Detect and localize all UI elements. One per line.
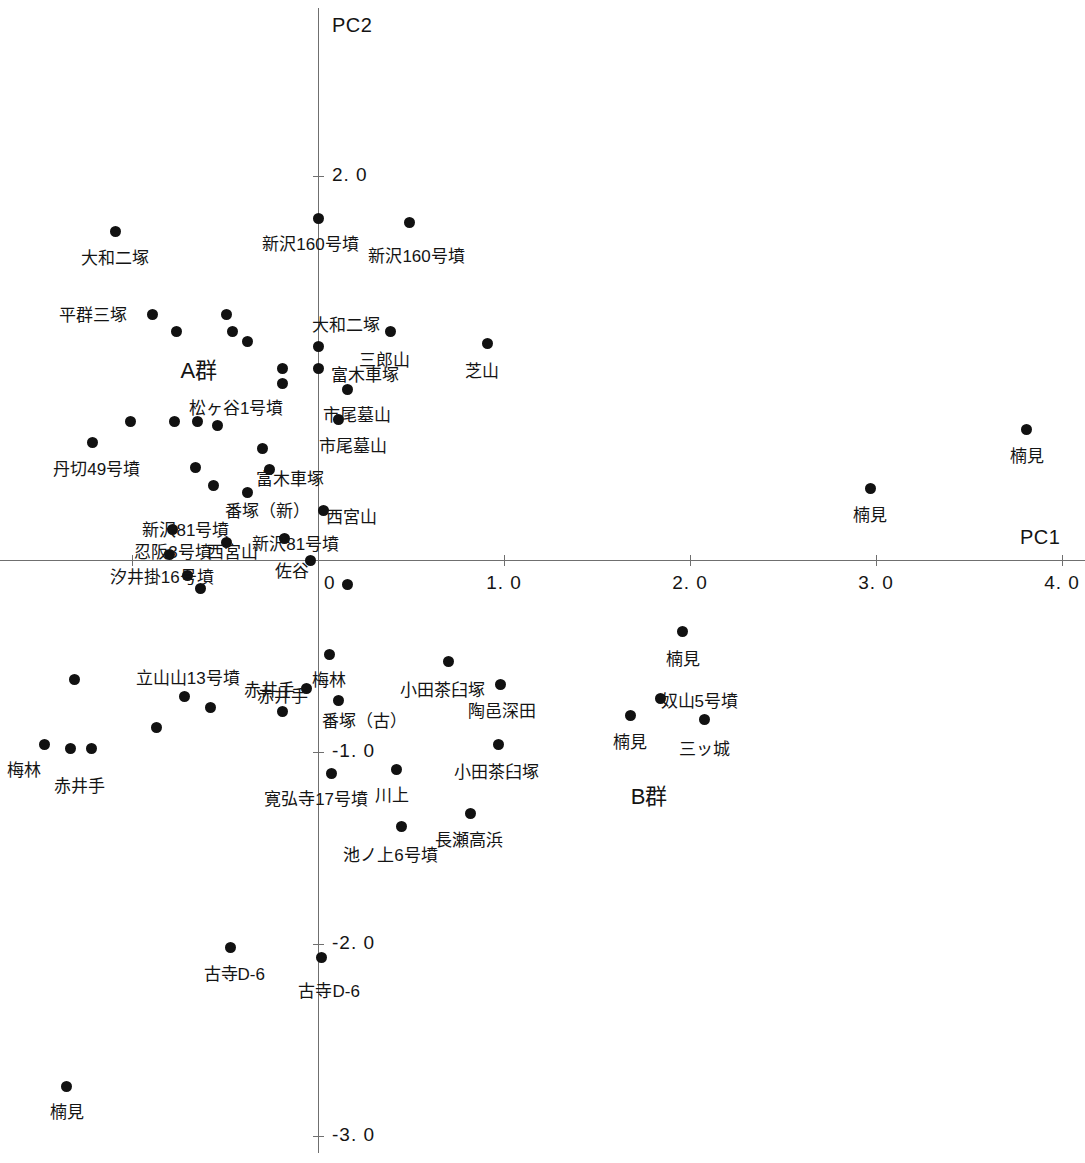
data-point-label: 立山山13号墳 xyxy=(136,664,240,689)
data-point-label: 古寺D-6 xyxy=(204,960,265,985)
data-point xyxy=(212,420,223,431)
data-point xyxy=(396,821,407,832)
data-point-label: 大和二塚 xyxy=(81,244,149,269)
data-point xyxy=(385,326,396,337)
data-point-label: 市尾墓山 xyxy=(319,432,387,457)
data-point-label: 丹切49号墳 xyxy=(53,455,140,480)
x-tick-label: 0 xyxy=(324,572,336,594)
x-tick-label: 3. 0 xyxy=(858,572,894,594)
data-point xyxy=(221,309,232,320)
data-point xyxy=(227,326,238,337)
cluster-annotation: B群 xyxy=(631,778,668,810)
data-point xyxy=(110,226,121,237)
data-point-label: 陶邑深田 xyxy=(468,697,536,722)
data-point-label: 番塚（新） xyxy=(225,497,310,522)
data-point-label: 川上 xyxy=(375,781,409,806)
data-point-label: 新沢160号墳 xyxy=(368,242,464,267)
data-point-label: 楠見 xyxy=(50,1098,84,1123)
data-point xyxy=(125,416,136,427)
y-tick-label: 2. 0 xyxy=(332,164,368,186)
data-point xyxy=(677,626,688,637)
data-point xyxy=(316,952,327,963)
data-point xyxy=(39,739,50,750)
data-point-label: 芝山 xyxy=(465,357,499,382)
data-point-label: 楠見 xyxy=(613,728,647,753)
y-tick xyxy=(313,176,324,177)
data-point xyxy=(324,649,335,660)
data-point xyxy=(190,462,201,473)
cluster-annotation: A群 xyxy=(181,352,218,384)
data-point xyxy=(208,480,219,491)
data-point xyxy=(179,691,190,702)
data-point xyxy=(342,579,353,590)
data-point xyxy=(169,416,180,427)
x-tick-label: 2. 0 xyxy=(672,572,708,594)
data-point-label: 大和二塚 xyxy=(312,311,380,336)
data-point xyxy=(87,437,98,448)
data-point-label: 梅林 xyxy=(312,666,346,691)
data-point xyxy=(61,1081,72,1092)
y-axis-title: PC2 xyxy=(332,14,372,37)
data-point xyxy=(277,363,288,374)
data-point xyxy=(69,674,80,685)
data-point-label: 新沢81号墳 xyxy=(252,530,339,555)
data-point-label: 赤井手 xyxy=(54,772,105,797)
data-point-label: 楠見 xyxy=(1010,442,1044,467)
data-point-label: 番塚（古） xyxy=(322,707,407,732)
data-point-label: 寛弘寺17号墳 xyxy=(264,785,368,810)
data-point-label: 新沢160号墳 xyxy=(262,230,358,255)
data-point xyxy=(205,702,216,713)
data-point xyxy=(326,768,337,779)
data-point xyxy=(277,378,288,389)
data-point-label: 奴山5号墳 xyxy=(661,687,738,712)
data-point xyxy=(242,336,253,347)
data-point-label: 小田茶臼塚 xyxy=(454,758,539,783)
data-point-label: 松ヶ谷1号墳 xyxy=(189,394,283,419)
y-tick-label: -1. 0 xyxy=(332,740,375,762)
data-point-label: 忍阪3号墳 xyxy=(134,538,211,563)
data-point xyxy=(699,714,710,725)
data-point xyxy=(147,309,158,320)
data-point xyxy=(482,338,493,349)
data-point xyxy=(865,483,876,494)
data-point-label: 西宮山 xyxy=(207,538,258,563)
x-tick xyxy=(1062,555,1063,566)
data-point-label: 富木車塚 xyxy=(331,361,399,386)
data-point-label: 池ノ上6号墳 xyxy=(343,841,437,866)
data-point xyxy=(313,363,324,374)
data-point xyxy=(342,384,353,395)
data-point xyxy=(313,213,324,224)
y-tick-label: -2. 0 xyxy=(332,932,375,954)
data-point-label: 古寺D-6 xyxy=(298,977,359,1002)
data-point xyxy=(313,341,324,352)
data-point-label: 平群三塚 xyxy=(59,301,127,326)
y-tick xyxy=(313,944,324,945)
data-point-label: 楠見 xyxy=(666,645,700,670)
data-point-label: 長瀬高浜 xyxy=(435,826,503,851)
pca-scatter-plot: 01. 02. 03. 04. 02. 0-1. 0-2. 0-3. 0PC2P… xyxy=(0,0,1085,1163)
data-point-label: 富木車塚 xyxy=(256,465,324,490)
data-point xyxy=(225,942,236,953)
data-point xyxy=(493,739,504,750)
x-axis-title: PC1 xyxy=(1020,526,1060,549)
data-point xyxy=(1021,424,1032,435)
y-tick xyxy=(313,1136,324,1137)
data-point xyxy=(443,656,454,667)
data-point-label: 三ッ城 xyxy=(679,735,730,760)
x-tick xyxy=(876,555,877,566)
data-point xyxy=(195,583,206,594)
data-point-label: 梅林 xyxy=(7,756,41,781)
x-tick-label: 4. 0 xyxy=(1044,572,1080,594)
data-point xyxy=(495,679,506,690)
x-tick xyxy=(690,555,691,566)
data-point xyxy=(65,743,76,754)
data-point-label: 佐谷 xyxy=(275,557,309,582)
data-point-label: 赤井手 xyxy=(257,682,308,707)
data-point xyxy=(151,722,162,733)
data-point xyxy=(625,710,636,721)
x-tick-label: 1. 0 xyxy=(486,572,522,594)
data-point xyxy=(333,695,344,706)
data-point xyxy=(391,764,402,775)
data-point xyxy=(404,217,415,228)
y-tick xyxy=(313,752,324,753)
